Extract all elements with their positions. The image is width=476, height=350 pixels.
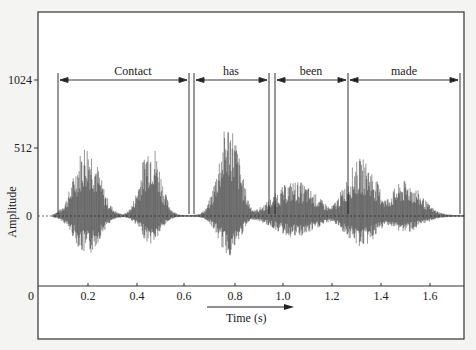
- x-tick-1.4: 1.4: [374, 289, 389, 303]
- x-tick-0.6: 0.6: [177, 289, 192, 303]
- waveform-chart: 1024 512 0 Amplitude 0 0.2 0.4 0.6 0.8 1…: [0, 0, 476, 350]
- x-tick-0.2: 0.2: [81, 289, 96, 303]
- y-tick-512: 512: [14, 141, 32, 155]
- y-tick-1024: 1024: [8, 73, 32, 87]
- x-tick-1.6: 1.6: [423, 289, 438, 303]
- word-label-has: has: [223, 64, 239, 78]
- x-tick-1.0: 1.0: [276, 289, 291, 303]
- chart-frame: [38, 12, 464, 339]
- x-tick-1.2: 1.2: [325, 289, 340, 303]
- y-axis-title: Amplitude: [5, 186, 19, 237]
- x-tick-0.8: 0.8: [228, 289, 243, 303]
- x-origin-label: 0: [28, 289, 34, 303]
- y-tick-0: 0: [26, 209, 32, 223]
- x-tick-0.4: 0.4: [130, 289, 145, 303]
- word-label-made: made: [391, 64, 417, 78]
- word-label-been: been: [300, 64, 323, 78]
- word-label-contact: Contact: [114, 64, 152, 78]
- x-axis-title: Time (s): [226, 311, 267, 325]
